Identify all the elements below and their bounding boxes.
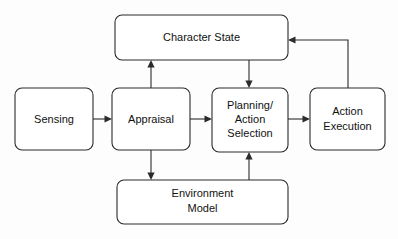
node-planning-action-selection-label-line1: Planning/ xyxy=(227,99,274,111)
node-action-execution[interactable]: Action Execution xyxy=(310,88,385,150)
node-appraisal-label: Appraisal xyxy=(128,113,174,125)
edge-sensing-to-appraisal xyxy=(93,115,112,122)
node-planning-action-selection[interactable]: Planning/ Action Selection xyxy=(212,88,288,152)
edge-action-execution-to-character-state xyxy=(288,36,348,88)
node-sensing[interactable]: Sensing xyxy=(15,88,93,150)
edge-character-state-to-planning xyxy=(245,60,252,88)
node-environment-model-label-line2: Model xyxy=(188,202,218,214)
edge-environment-model-to-planning xyxy=(245,152,252,180)
node-action-execution-label-line1: Action xyxy=(332,105,363,117)
edge-appraisal-to-environment-model xyxy=(147,150,154,180)
node-planning-action-selection-label-line2: Action xyxy=(235,113,266,125)
node-sensing-label: Sensing xyxy=(34,113,74,125)
node-character-state[interactable]: Character State xyxy=(115,15,288,60)
node-character-state-label: Character State xyxy=(163,31,240,43)
node-environment-model-label-line1: Environment xyxy=(172,187,234,199)
edge-appraisal-to-character-state xyxy=(147,60,154,88)
node-action-execution-label-line2: Execution xyxy=(323,120,371,132)
node-planning-action-selection-label-line3: Selection xyxy=(227,127,272,139)
diagram-canvas: Character State Sensing Appraisal Planni… xyxy=(0,0,398,239)
node-appraisal[interactable]: Appraisal xyxy=(112,88,190,150)
edge-planning-to-action-execution xyxy=(288,115,310,122)
flow-diagram: Character State Sensing Appraisal Planni… xyxy=(0,0,398,239)
node-environment-model[interactable]: Environment Model xyxy=(117,180,288,224)
edge-appraisal-to-planning xyxy=(190,115,212,122)
